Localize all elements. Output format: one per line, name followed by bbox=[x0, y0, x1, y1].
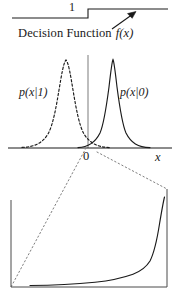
leader-line-left bbox=[11, 148, 86, 287]
step-level-label: 1 bbox=[69, 1, 75, 13]
x-axis-label: x bbox=[155, 151, 161, 164]
density-label-p-x-given-1: p(x|1) bbox=[19, 86, 48, 98]
density-curve-p-x-given-0 bbox=[78, 60, 150, 148]
step-function-path bbox=[12, 9, 168, 18]
caption-symbol: f(x) bbox=[116, 26, 134, 40]
density-curve-p-x-given-1 bbox=[22, 60, 110, 148]
density-label-p-x-given-0: p(x|0) bbox=[120, 86, 149, 98]
caption-text: Decision Function bbox=[18, 26, 112, 40]
inset-tail-curve bbox=[30, 197, 165, 286]
x-axis-origin-tick-label: 0 bbox=[83, 150, 89, 163]
decision-function-figure: 1 Decision Functionf(x) p(x|1) p(x|0) 0 … bbox=[0, 0, 178, 299]
decision-function-caption: Decision Functionf(x) bbox=[18, 27, 133, 40]
